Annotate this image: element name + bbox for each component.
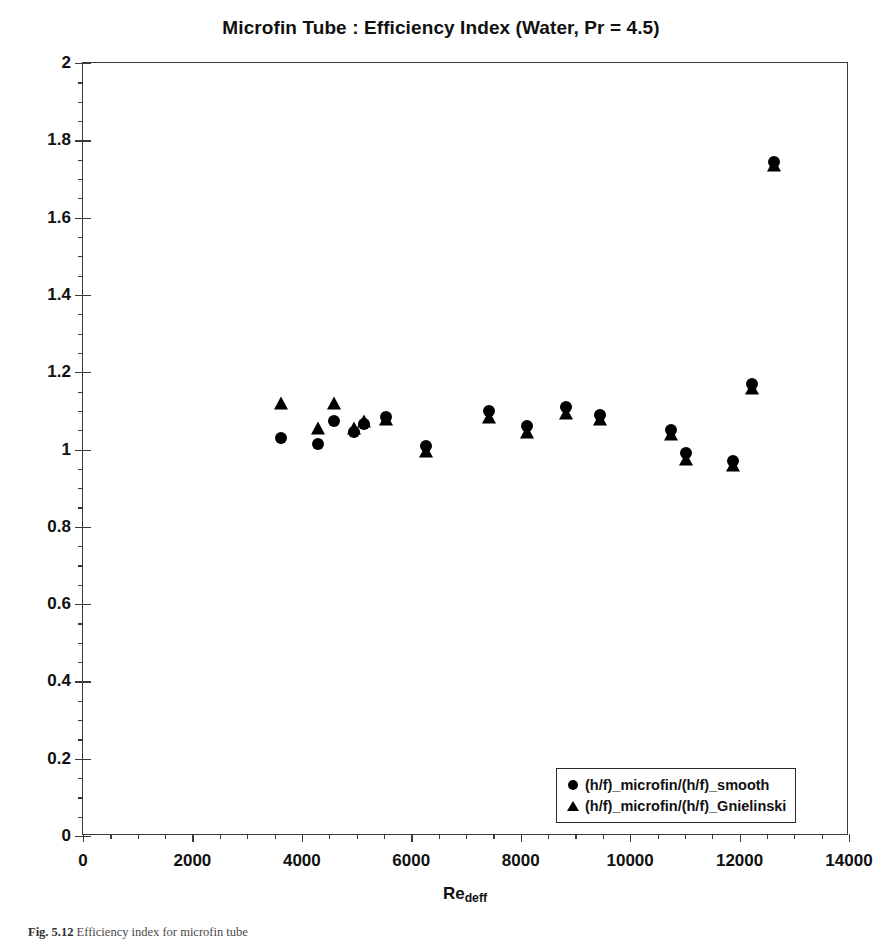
chart-legend: (h/f)_microfin/(h/f)_smooth (h/f)_microf… [556,768,796,823]
y-tick-major [75,372,83,373]
legend-item-smooth: (h/f)_microfin/(h/f)_smooth [565,774,786,795]
x-tick-minor [548,834,549,839]
x-tick-minor [110,834,111,839]
y-axis-tick-label: 0.8 [47,517,71,537]
data-point-triangle [520,426,534,439]
y-axis-tick-label: 0.4 [47,671,71,691]
x-axis-title: Redeff [82,884,848,905]
y-tick-major [75,450,83,451]
figure-caption-text: Efficiency index for microfin tube [77,925,248,939]
legend-label-smooth: (h/f)_microfin/(h/f)_smooth [585,777,769,793]
data-point-triangle [593,412,607,425]
x-tick-minor [165,834,166,839]
x-axis-tick-label: 12000 [716,851,763,871]
y-axis-tick-label: 0.2 [47,749,71,769]
data-point-triangle [357,414,371,427]
x-tick-minor [220,834,221,839]
figure-caption-number: Fig. 5.12 [28,925,73,939]
x-tick-major [192,834,193,842]
data-point-triangle [379,412,393,425]
x-tick-minor [712,834,713,839]
x-tick-minor [329,834,330,839]
data-point-triangle [664,428,678,441]
x-tick-minor [603,834,604,839]
plot-area: 00.20.40.60.811.21.41.61.820200040006000… [82,62,848,835]
data-point-triangle [559,406,573,419]
y-axis-tick-label: 0.6 [47,594,71,614]
y-tick-major [75,759,83,760]
x-tick-minor [439,834,440,839]
x-tick-minor [685,834,686,839]
y-axis-tick-label: 1.6 [47,208,71,228]
figure-container: Microfin Tube : Efficiency Index (Water,… [0,0,882,940]
x-tick-minor [822,834,823,839]
y-tick-major [75,295,83,296]
x-axis-tick-label: 6000 [392,851,430,871]
chart-title: Microfin Tube : Efficiency Index (Water,… [0,17,882,39]
data-point-triangle [726,458,740,471]
x-tick-minor [466,834,467,839]
legend-item-gnielinski: (h/f)_microfin/(h/f)_Gnielinski [565,795,786,816]
x-tick-minor [794,834,795,839]
data-markers-layer [83,63,847,834]
x-axis-tick-label: 0 [78,851,87,871]
data-point-triangle [745,381,759,394]
x-tick-minor [575,834,576,839]
legend-label-gnielinski: (h/f)_microfin/(h/f)_Gnielinski [585,798,786,814]
x-tick-major [521,834,522,842]
x-tick-minor [138,834,139,839]
x-tick-major [302,834,303,842]
x-tick-major [411,834,412,842]
data-point-triangle [419,445,433,458]
y-axis-tick-label: 0 [62,826,71,846]
y-axis-tick-label: 2 [62,53,71,73]
y-axis-tick-label: 1 [62,440,71,460]
x-tick-major [849,834,850,842]
x-tick-minor [247,834,248,839]
y-axis-tick-label: 1.2 [47,362,71,382]
circle-marker-icon [565,780,581,790]
y-tick-major [75,63,83,64]
x-axis-tick-label: 14000 [825,851,872,871]
y-tick-major [75,681,83,682]
y-tick-major [75,836,83,837]
data-point-circle [275,432,287,444]
y-axis-tick-label: 1.4 [47,285,71,305]
x-tick-major [630,834,631,842]
y-tick-major [75,140,83,141]
data-point-circle [312,438,324,450]
x-tick-major [740,834,741,842]
data-point-triangle [274,397,288,410]
x-axis-tick-label: 8000 [502,851,540,871]
data-point-triangle [327,397,341,410]
x-tick-minor [357,834,358,839]
data-point-triangle [482,410,496,423]
data-point-triangle [679,453,693,466]
triangle-marker-icon [565,801,581,811]
figure-caption: Fig. 5.12 Efficiency index for microfin … [28,925,728,940]
x-tick-minor [658,834,659,839]
x-tick-minor [275,834,276,839]
x-axis-tick-label: 2000 [174,851,212,871]
y-tick-major [75,604,83,605]
data-point-triangle [311,422,325,435]
x-tick-minor [767,834,768,839]
x-tick-major [83,834,84,842]
x-tick-minor [493,834,494,839]
y-axis-tick-label: 1.8 [47,130,71,150]
x-tick-minor [384,834,385,839]
y-tick-major [75,218,83,219]
x-axis-tick-label: 4000 [283,851,321,871]
x-axis-tick-label: 10000 [607,851,654,871]
y-tick-major [75,527,83,528]
data-point-triangle [767,159,781,172]
data-point-circle [328,415,340,427]
